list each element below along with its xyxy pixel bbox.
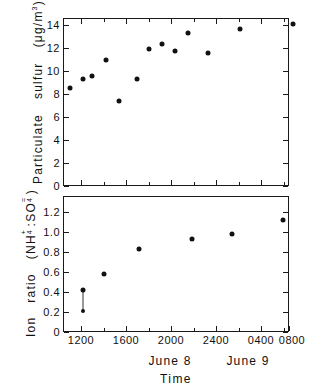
y-tick-right-0 bbox=[283, 332, 288, 333]
mu-glyph: μ bbox=[31, 34, 45, 42]
x-tick-2000 bbox=[171, 180, 172, 185]
chart-panel-ion-ratio: 0 0.2 0.4 0.6 0.8 1.0 1.2 1200 1600 2000… bbox=[63, 196, 289, 332]
ammonium-subscript: 4 bbox=[26, 229, 33, 234]
y-title-units-exponent: 3 bbox=[31, 5, 38, 10]
sulfate-subscript: 4 bbox=[26, 197, 33, 202]
y-title-word-2: ratio bbox=[24, 273, 38, 302]
figure-canvas: 0 2 4 6 8 10 12 14 bbox=[0, 0, 312, 392]
y-ticklabel-0-6: 0.6 bbox=[43, 267, 60, 278]
x-tick-2400 bbox=[216, 180, 217, 185]
y-ticklabel-0-4: 0.4 bbox=[43, 287, 60, 298]
y-tick-right-2 bbox=[283, 163, 288, 164]
chart-panel-particulate-sulfur: 0 2 4 6 8 10 12 14 bbox=[63, 18, 289, 186]
y-title-paren-open: ( bbox=[24, 254, 38, 259]
x-tick-0400 bbox=[261, 180, 262, 185]
y-title-word-2: sulfur bbox=[31, 62, 45, 99]
x-tick-1600 bbox=[126, 180, 127, 185]
x-ticklabel-2400: 2400 bbox=[203, 335, 229, 346]
y-tick-1-2 bbox=[64, 212, 69, 213]
y-tick-right-0-8 bbox=[283, 252, 288, 253]
y-ticklabel-10: 10 bbox=[47, 66, 60, 77]
x-tick-minor-3 bbox=[194, 328, 195, 331]
x-tick-minor-3 bbox=[194, 182, 195, 185]
y-tick-right-12 bbox=[283, 48, 288, 49]
data-point bbox=[281, 218, 286, 223]
y-ticklabel-8: 8 bbox=[53, 89, 60, 100]
y-tick-right-1-2 bbox=[283, 212, 288, 213]
x-tick-top-minor-5 bbox=[284, 19, 285, 22]
y-tick-0-8 bbox=[64, 252, 69, 253]
x-ticklabel-2000: 2000 bbox=[158, 335, 184, 346]
x-ticklabel-1200: 1200 bbox=[68, 335, 94, 346]
x-tick-minor-2 bbox=[149, 182, 150, 185]
data-point bbox=[81, 288, 86, 293]
y-ticklabel-2: 2 bbox=[53, 158, 60, 169]
x-tick-1600 bbox=[126, 326, 127, 331]
y-ticklabel-12: 12 bbox=[47, 43, 60, 54]
x-tick-minor-5 bbox=[284, 328, 285, 331]
data-point bbox=[147, 47, 152, 52]
x-tick-0400 bbox=[261, 326, 262, 331]
x-axis-title: Time bbox=[63, 372, 289, 386]
x-tick-top-2000 bbox=[171, 19, 172, 24]
x-tick-top-1600 bbox=[126, 19, 127, 24]
y-ticklabel-0: 0 bbox=[53, 327, 60, 338]
x-tick-top-1200 bbox=[81, 19, 82, 24]
data-point bbox=[135, 76, 140, 81]
y-title-units-open: ( bbox=[31, 42, 45, 47]
x-tick-2400 bbox=[216, 326, 217, 331]
x-tick-2000 bbox=[171, 326, 172, 331]
y-tick-right-4 bbox=[283, 140, 288, 141]
y-ticklabel-14: 14 bbox=[47, 20, 60, 31]
range-bar-annotation bbox=[83, 290, 84, 311]
y-tick-right-8 bbox=[283, 94, 288, 95]
data-point bbox=[102, 272, 107, 277]
data-point bbox=[291, 21, 296, 26]
y-tick-1-0 bbox=[64, 232, 69, 233]
y-tick-2 bbox=[64, 163, 69, 164]
data-point bbox=[230, 232, 235, 237]
y-title-word-1: Particulate bbox=[31, 114, 45, 184]
y-tick-0 bbox=[64, 186, 69, 187]
ammonium-formula: NH bbox=[24, 234, 38, 254]
x-tick-minor-2 bbox=[149, 328, 150, 331]
x-ticklabel-1600: 1600 bbox=[113, 335, 139, 346]
x-tick-top-minor-2 bbox=[149, 19, 150, 22]
data-point bbox=[173, 48, 178, 53]
data-point bbox=[160, 41, 165, 46]
x-tick-1200 bbox=[81, 180, 82, 185]
y-tick-right-0-2 bbox=[283, 312, 288, 313]
day-label-june-9: June 9 bbox=[226, 354, 269, 368]
y-ticklabel-0-2: 0.2 bbox=[43, 307, 60, 318]
data-point bbox=[137, 247, 142, 252]
data-point bbox=[90, 74, 95, 79]
y-tick-6 bbox=[64, 117, 69, 118]
y-ticklabel-0-8: 0.8 bbox=[43, 247, 60, 258]
x-tick-1200 bbox=[81, 326, 82, 331]
y-title-units-close: ) bbox=[31, 0, 45, 5]
y-tick-0 bbox=[64, 332, 69, 333]
y-tick-8 bbox=[64, 94, 69, 95]
y-tick-0-6 bbox=[64, 272, 69, 273]
y-tick-right-0-4 bbox=[283, 292, 288, 293]
x-tick-top-2400 bbox=[216, 19, 217, 24]
y-ticklabel-6: 6 bbox=[53, 112, 60, 123]
data-point bbox=[238, 27, 243, 32]
y-ticklabel-4: 4 bbox=[53, 135, 60, 146]
y-tick-0-2 bbox=[64, 312, 69, 313]
y-tick-right-6 bbox=[283, 117, 288, 118]
data-point bbox=[186, 31, 191, 36]
x-tick-top-minor-4 bbox=[239, 19, 240, 22]
y-tick-4 bbox=[64, 140, 69, 141]
x-tick-top-minor-3 bbox=[194, 19, 195, 22]
data-point bbox=[68, 86, 73, 91]
x-tick-minor-4 bbox=[239, 328, 240, 331]
y-tick-12 bbox=[64, 48, 69, 49]
day-label-june-8: June 8 bbox=[148, 354, 191, 368]
y-tick-right-14 bbox=[283, 25, 288, 26]
y-tick-0-4 bbox=[64, 292, 69, 293]
data-point bbox=[81, 76, 86, 81]
x-tick-minor-5 bbox=[284, 182, 285, 185]
y-tick-10 bbox=[64, 71, 69, 72]
y-tick-right-0 bbox=[283, 186, 288, 187]
